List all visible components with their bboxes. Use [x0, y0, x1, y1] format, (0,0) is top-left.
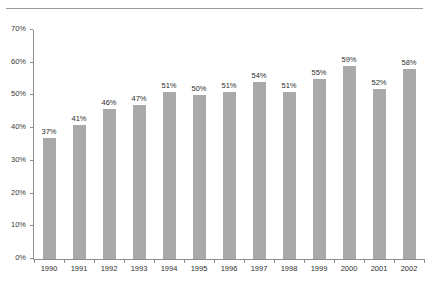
bar: 46% — [103, 109, 116, 259]
y-tick: 40% — [30, 127, 33, 128]
x-tick-label: 1997 — [251, 264, 268, 273]
bar-value-label: 59% — [341, 55, 356, 64]
bar: 37% — [43, 138, 56, 259]
bar: 59% — [343, 66, 356, 259]
x-tick-label: 2001 — [371, 264, 388, 273]
x-tick-label: 2002 — [401, 264, 418, 273]
y-tick: 70% — [30, 29, 33, 30]
bar-value-label: 58% — [401, 58, 416, 67]
y-tick: 50% — [30, 94, 33, 95]
x-tick — [364, 260, 365, 263]
header-divider — [6, 8, 423, 9]
x-tick-label: 1992 — [101, 264, 118, 273]
x-tick-label: 1995 — [191, 264, 208, 273]
y-tick-label: 50% — [11, 89, 26, 98]
x-tick-label: 1994 — [161, 264, 178, 273]
bar-value-label: 51% — [221, 81, 236, 90]
x-tick — [184, 260, 185, 263]
x-tick-label: 1993 — [131, 264, 148, 273]
x-tick-label: 1998 — [281, 264, 298, 273]
bar: 47% — [133, 105, 146, 259]
y-tick: 30% — [30, 160, 33, 161]
x-axis-line — [33, 259, 425, 260]
x-tick — [64, 260, 65, 263]
x-tick — [304, 260, 305, 263]
y-tick-label: 30% — [11, 155, 26, 164]
x-tick — [424, 260, 425, 263]
x-tick — [94, 260, 95, 263]
bar: 52% — [373, 89, 386, 259]
bar: 54% — [253, 82, 266, 259]
x-tick — [244, 260, 245, 263]
bar: 51% — [283, 92, 296, 259]
bar: 51% — [163, 92, 176, 259]
bar: 51% — [223, 92, 236, 259]
x-tick-label: 1991 — [71, 264, 88, 273]
x-tick — [394, 260, 395, 263]
x-tick — [34, 260, 35, 263]
x-tick-label: 1999 — [311, 264, 328, 273]
y-axis-line — [33, 30, 34, 260]
bar-value-label: 51% — [161, 81, 176, 90]
chart-figure: 0%10%20%30%40%50%60%70% 37%41%46%47%51%5… — [0, 0, 429, 281]
bar-value-label: 52% — [371, 78, 386, 87]
y-tick: 60% — [30, 62, 33, 63]
y-tick: 20% — [30, 193, 33, 194]
y-tick-label: 0% — [15, 253, 26, 262]
x-tick — [334, 260, 335, 263]
bar-value-label: 46% — [101, 98, 116, 107]
y-tick: 0% — [30, 258, 33, 259]
bar-value-label: 55% — [311, 68, 326, 77]
x-tick-label: 1990 — [41, 264, 58, 273]
x-tick — [124, 260, 125, 263]
bar-value-label: 51% — [281, 81, 296, 90]
x-tick — [214, 260, 215, 263]
y-tick-label: 60% — [11, 57, 26, 66]
bar: 55% — [313, 79, 326, 259]
x-tick-label: 2000 — [341, 264, 358, 273]
x-tick — [274, 260, 275, 263]
x-tick-label: 1996 — [221, 264, 238, 273]
bar: 50% — [193, 95, 206, 259]
bar-value-label: 47% — [131, 94, 146, 103]
bar: 41% — [73, 125, 86, 259]
plot-area: 0%10%20%30%40%50%60%70% 37%41%46%47%51%5… — [33, 30, 425, 260]
bar-value-label: 41% — [71, 114, 86, 123]
y-tick-label: 70% — [11, 24, 26, 33]
bar-value-label: 54% — [251, 71, 266, 80]
y-tick-label: 40% — [11, 122, 26, 131]
y-tick-label: 20% — [11, 188, 26, 197]
y-tick: 10% — [30, 225, 33, 226]
bar-value-label: 37% — [41, 127, 56, 136]
y-tick-label: 10% — [11, 220, 26, 229]
x-tick — [154, 260, 155, 263]
bar-value-label: 50% — [191, 84, 206, 93]
bar: 58% — [403, 69, 416, 259]
